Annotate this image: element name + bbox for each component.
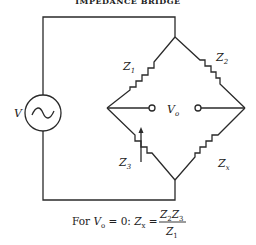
z2-label: Z2 — [215, 51, 229, 66]
ac-source-icon — [25, 95, 61, 131]
impedance-bridge-diagram: IMPEDANCE BRIDGE V Z1 Z2 Z3 Zx Vo — [0, 0, 256, 245]
balance-equation: For Vo = 0: Zx = Z2Z3 Z1 — [72, 208, 186, 240]
output-voltage-label: Vo — [167, 103, 179, 118]
z1-label: Z1 — [122, 60, 135, 75]
z3-label: Z3 — [118, 156, 132, 171]
equation-denominator: Z1 — [165, 225, 178, 240]
equation-lhs: For Vo = 0: Zx = — [72, 215, 158, 230]
zx-label: Zx — [217, 157, 230, 172]
zx-resistor-icon — [175, 108, 245, 180]
equation-numerator: Z2Z3 — [159, 208, 184, 223]
diagram-title: IMPEDANCE BRIDGE — [75, 0, 180, 6]
z1-resistor-icon — [107, 37, 175, 108]
z2-resistor-icon — [175, 37, 245, 108]
z3-variable-resistor-icon — [107, 108, 175, 180]
source-label: V — [14, 107, 23, 120]
